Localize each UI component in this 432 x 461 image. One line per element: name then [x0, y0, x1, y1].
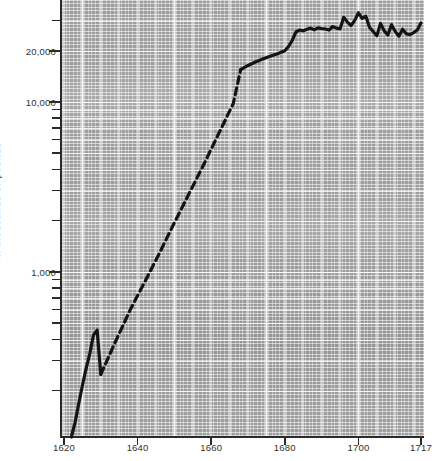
x-axis-spine [60, 436, 424, 438]
y-axis-tick [52, 109, 60, 111]
paper-tone-overlay [62, 0, 424, 437]
y-axis-tick [52, 169, 60, 171]
x-axis-tick-label: 1680 [274, 442, 296, 453]
y-axis-tick [52, 339, 60, 341]
grid-vertical-minor [62, 0, 424, 437]
y-axis-tick [52, 390, 60, 392]
y-axis-tick [52, 127, 60, 129]
y-axis-tick [52, 117, 60, 119]
x-axis-tick-label: 1620 [53, 442, 75, 453]
grid-horizontal-minor [62, 0, 424, 437]
chart-root: 20,00010,0001,000 1620164016601680170017… [0, 0, 432, 461]
y-axis-tick [52, 287, 60, 289]
x-axis-tick-label: 1660 [200, 442, 222, 453]
x-axis-tick-label: 1717 [410, 442, 432, 453]
y-axis-tick [52, 297, 60, 299]
y-axis-tick-label: 10,000 [26, 97, 56, 108]
y-axis-tick-label: 1,000 [31, 267, 56, 278]
y-axis-tick [52, 220, 60, 222]
y-axis-spine [60, 0, 62, 438]
y-axis-tick [52, 152, 60, 154]
y-axis-tick [52, 322, 60, 324]
y-axis-tick [52, 279, 60, 281]
y-axis-tick [52, 360, 60, 362]
plot-area [62, 0, 424, 437]
y-axis-tick-label: 20,000 [26, 45, 56, 56]
y-axis-tick [52, 139, 60, 141]
grid-vertical-major [62, 0, 424, 437]
y-axis-tick [52, 20, 60, 22]
y-axis-tick [52, 190, 60, 192]
x-axis-tick-label: 1700 [347, 442, 369, 453]
y-axis-tick [52, 309, 60, 311]
y-axis-title: In thousands of pounds [0, 142, 2, 260]
x-axis-tick-label: 1640 [127, 442, 149, 453]
